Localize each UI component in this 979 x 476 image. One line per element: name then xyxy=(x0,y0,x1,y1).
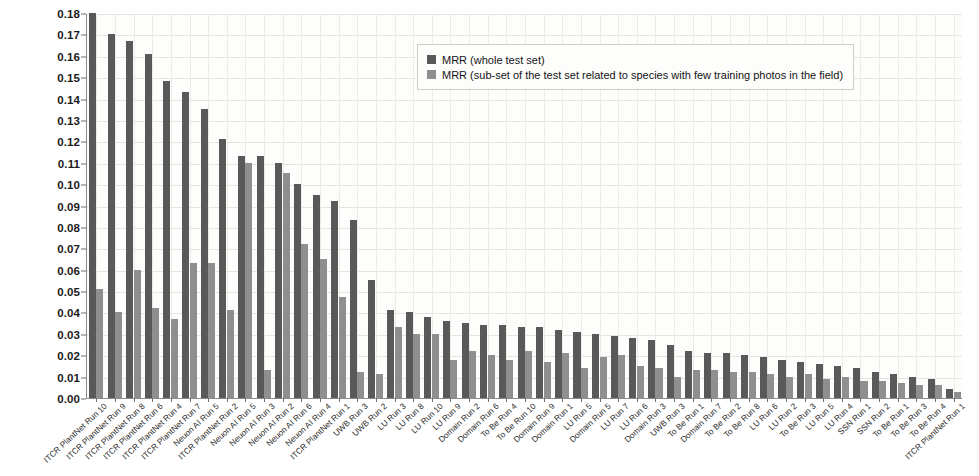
bar-group[interactable] xyxy=(368,14,383,398)
bar-group[interactable] xyxy=(126,14,141,398)
bar-mrr-subset[interactable] xyxy=(320,259,327,398)
bar-mrr-subset[interactable] xyxy=(711,370,718,398)
bar-mrr-whole[interactable] xyxy=(145,54,152,398)
bar-mrr-subset[interactable] xyxy=(283,173,290,398)
bar-mrr-whole[interactable] xyxy=(760,357,767,398)
bar-mrr-subset[interactable] xyxy=(376,374,383,398)
bar-group[interactable] xyxy=(928,14,943,398)
bar-mrr-whole[interactable] xyxy=(890,374,897,398)
bar-mrr-subset[interactable] xyxy=(152,308,159,398)
bar-mrr-subset[interactable] xyxy=(301,244,308,398)
bar-mrr-whole[interactable] xyxy=(555,330,562,398)
bar-mrr-whole[interactable] xyxy=(275,163,282,398)
bar-mrr-subset[interactable] xyxy=(916,385,923,398)
bar-mrr-whole[interactable] xyxy=(629,338,636,398)
bar-mrr-whole[interactable] xyxy=(816,364,823,398)
bar-mrr-subset[interactable] xyxy=(786,377,793,398)
bar-mrr-subset[interactable] xyxy=(525,351,532,398)
bar-mrr-whole[interactable] xyxy=(368,280,375,398)
bar-mrr-whole[interactable] xyxy=(480,325,487,398)
bar-mrr-whole[interactable] xyxy=(201,109,208,398)
bar-mrr-subset[interactable] xyxy=(842,377,849,398)
bar-mrr-whole[interactable] xyxy=(219,139,226,398)
bar-mrr-subset[interactable] xyxy=(562,353,569,398)
bar-mrr-subset[interactable] xyxy=(637,366,644,398)
bar-mrr-whole[interactable] xyxy=(741,355,748,398)
bar-mrr-subset[interactable] xyxy=(767,374,774,398)
bar-mrr-whole[interactable] xyxy=(592,334,599,398)
bar-mrr-subset[interactable] xyxy=(730,372,737,398)
bar-mrr-subset[interactable] xyxy=(674,377,681,398)
bar-mrr-subset[interactable] xyxy=(469,351,476,398)
bar-mrr-whole[interactable] xyxy=(424,317,431,398)
bar-mrr-whole[interactable] xyxy=(331,201,338,398)
bar-mrr-subset[interactable] xyxy=(96,289,103,398)
bar-mrr-subset[interactable] xyxy=(693,370,700,398)
bar-mrr-whole[interactable] xyxy=(648,340,655,398)
bar-group[interactable] xyxy=(294,14,309,398)
bar-mrr-subset[interactable] xyxy=(171,319,178,398)
bar-group[interactable] xyxy=(145,14,160,398)
bar-group[interactable] xyxy=(163,14,178,398)
bar-mrr-whole[interactable] xyxy=(573,332,580,398)
bar-mrr-whole[interactable] xyxy=(518,327,525,398)
bar-mrr-whole[interactable] xyxy=(797,362,804,398)
bar-mrr-whole[interactable] xyxy=(294,184,301,398)
bar-group[interactable] xyxy=(853,14,868,398)
bar-mrr-subset[interactable] xyxy=(544,362,551,398)
bar-mrr-subset[interactable] xyxy=(432,334,439,398)
bar-mrr-whole[interactable] xyxy=(462,323,469,398)
bar-mrr-whole[interactable] xyxy=(834,366,841,398)
bar-mrr-subset[interactable] xyxy=(264,370,271,398)
bar-mrr-subset[interactable] xyxy=(935,385,942,398)
bar-mrr-subset[interactable] xyxy=(805,374,812,398)
bar-group[interactable] xyxy=(219,14,234,398)
bar-mrr-whole[interactable] xyxy=(928,379,935,398)
bar-mrr-whole[interactable] xyxy=(350,220,357,398)
bar-mrr-whole[interactable] xyxy=(704,353,711,398)
bar-mrr-whole[interactable] xyxy=(108,34,115,398)
bar-mrr-subset[interactable] xyxy=(115,312,122,398)
bar-mrr-subset[interactable] xyxy=(860,381,867,398)
bar-mrr-whole[interactable] xyxy=(89,13,96,398)
bar-group[interactable] xyxy=(275,14,290,398)
bar-mrr-whole[interactable] xyxy=(182,92,189,398)
bar-mrr-whole[interactable] xyxy=(909,377,916,398)
bar-group[interactable] xyxy=(201,14,216,398)
bar-mrr-whole[interactable] xyxy=(443,321,450,398)
bar-group[interactable] xyxy=(872,14,887,398)
bar-mrr-whole[interactable] xyxy=(313,195,320,398)
bar-mrr-subset[interactable] xyxy=(395,327,402,398)
bar-mrr-subset[interactable] xyxy=(245,163,252,398)
bar-mrr-subset[interactable] xyxy=(823,379,830,398)
bar-mrr-whole[interactable] xyxy=(257,156,264,398)
bar-mrr-whole[interactable] xyxy=(723,353,730,398)
bar-mrr-subset[interactable] xyxy=(488,355,495,398)
bar-mrr-whole[interactable] xyxy=(872,372,879,398)
bar-mrr-subset[interactable] xyxy=(506,360,513,399)
bar-mrr-whole[interactable] xyxy=(667,345,674,398)
bar-mrr-whole[interactable] xyxy=(499,325,506,398)
bar-mrr-whole[interactable] xyxy=(406,312,413,398)
bar-mrr-subset[interactable] xyxy=(879,381,886,398)
bar-mrr-whole[interactable] xyxy=(853,368,860,398)
bar-mrr-subset[interactable] xyxy=(413,334,420,398)
bar-group[interactable] xyxy=(909,14,924,398)
bar-mrr-subset[interactable] xyxy=(339,297,346,398)
bar-mrr-whole[interactable] xyxy=(238,156,245,398)
bar-mrr-subset[interactable] xyxy=(655,368,662,398)
bar-mrr-subset[interactable] xyxy=(749,372,756,398)
bar-mrr-whole[interactable] xyxy=(611,336,618,398)
bar-group[interactable] xyxy=(89,14,104,398)
bar-group[interactable] xyxy=(313,14,328,398)
bar-group[interactable] xyxy=(257,14,272,398)
bar-mrr-subset[interactable] xyxy=(357,372,364,398)
bar-group[interactable] xyxy=(890,14,905,398)
bar-mrr-subset[interactable] xyxy=(450,360,457,399)
bar-mrr-subset[interactable] xyxy=(581,368,588,398)
bar-mrr-subset[interactable] xyxy=(600,357,607,398)
bar-group[interactable] xyxy=(331,14,346,398)
bar-mrr-whole[interactable] xyxy=(778,360,785,399)
bar-group[interactable] xyxy=(108,14,123,398)
bar-mrr-whole[interactable] xyxy=(946,389,953,398)
